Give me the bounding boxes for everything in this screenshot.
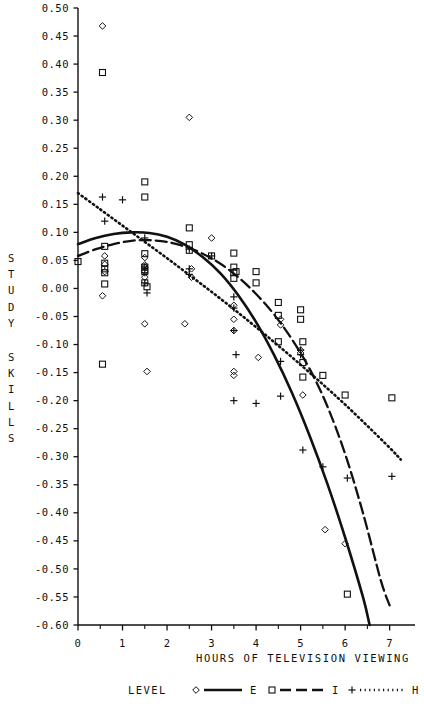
x-tick-label: 6 bbox=[342, 637, 349, 649]
marker-square bbox=[344, 591, 350, 597]
fit-line-E bbox=[78, 232, 370, 625]
x-tick-label: 0 bbox=[75, 637, 82, 649]
y-axis-title-char: K bbox=[8, 367, 15, 379]
marker-square bbox=[253, 269, 259, 275]
y-axis-title-char: S bbox=[8, 432, 14, 444]
series-points-E bbox=[99, 23, 348, 547]
y-tick-label: 0.50 bbox=[42, 2, 69, 14]
legend-label-H: H bbox=[412, 684, 420, 696]
y-tick-label: -0.55 bbox=[35, 591, 69, 603]
y-tick-label: -0.15 bbox=[35, 366, 69, 378]
marker-square bbox=[99, 361, 105, 367]
legend-label-I: I bbox=[332, 684, 340, 696]
x-tick-label: 3 bbox=[208, 637, 215, 649]
y-axis-title-char: Y bbox=[8, 317, 15, 329]
y-axis-title-char: S bbox=[8, 351, 14, 363]
marker-square bbox=[231, 250, 237, 256]
y-tick-label: -0.05 bbox=[35, 310, 69, 322]
x-axis-title: HOURS OF TELEVISION VIEWING bbox=[196, 652, 410, 664]
y-tick-label: 0.35 bbox=[42, 86, 69, 98]
y-axis-title-char: D bbox=[8, 301, 14, 313]
marker-diamond bbox=[144, 368, 151, 375]
marker-square bbox=[298, 307, 304, 313]
marker-square bbox=[300, 374, 306, 380]
marker-diamond bbox=[193, 687, 200, 694]
y-tick-label: 0.25 bbox=[42, 142, 69, 154]
legend-title: LEVEL bbox=[128, 684, 167, 696]
marker-diamond bbox=[99, 292, 106, 299]
y-tick-label: 0.00 bbox=[42, 282, 69, 294]
scatter-chart: 0.500.450.400.350.300.250.200.150.100.05… bbox=[0, 0, 424, 710]
marker-diamond bbox=[255, 354, 262, 361]
y-tick-label: 0.45 bbox=[42, 30, 69, 42]
y-axis-title-char: S bbox=[8, 252, 14, 264]
marker-square bbox=[298, 316, 304, 322]
y-tick-label: -0.60 bbox=[35, 619, 69, 631]
y-tick-label: -0.50 bbox=[35, 563, 69, 575]
marker-square bbox=[269, 687, 275, 693]
y-tick-label: 0.05 bbox=[42, 254, 69, 266]
marker-square bbox=[253, 280, 259, 286]
marker-square bbox=[142, 179, 148, 185]
x-tick-label: 1 bbox=[119, 637, 126, 649]
marker-diamond bbox=[99, 23, 106, 30]
marker-square bbox=[275, 299, 281, 305]
y-tick-label: -0.45 bbox=[35, 534, 69, 546]
legend: LEVELEIH bbox=[128, 684, 420, 696]
y-tick-label: -0.20 bbox=[35, 394, 69, 406]
y-axis-title-char: L bbox=[8, 400, 14, 412]
marker-diamond bbox=[182, 320, 189, 327]
marker-square bbox=[99, 70, 105, 76]
y-tick-label: 0.20 bbox=[42, 170, 69, 182]
chart-root: 0.500.450.400.350.300.250.200.150.100.05… bbox=[0, 0, 424, 710]
y-tick-label: -0.25 bbox=[35, 422, 69, 434]
y-tick-label: 0.15 bbox=[42, 198, 69, 210]
y-axis-title: STUDYSKILLS bbox=[8, 252, 15, 444]
x-tick-label: 7 bbox=[386, 637, 393, 649]
y-axis-title-char: T bbox=[8, 268, 15, 280]
y-axis-title-char: I bbox=[8, 383, 14, 395]
y-tick-label: 0.30 bbox=[42, 114, 69, 126]
series-curve-E bbox=[78, 232, 370, 625]
y-tick-label: -0.10 bbox=[35, 338, 69, 350]
y-tick-label: 0.40 bbox=[42, 58, 69, 70]
legend-label-E: E bbox=[250, 684, 258, 696]
y-tick-label: -0.30 bbox=[35, 450, 69, 462]
marker-square bbox=[102, 281, 108, 287]
marker-square bbox=[186, 225, 192, 231]
y-tick-label: -0.35 bbox=[35, 478, 69, 490]
marker-square bbox=[342, 392, 348, 398]
marker-diamond bbox=[141, 254, 148, 261]
y-tick-label: -0.40 bbox=[35, 506, 69, 518]
y-axis-title-char: U bbox=[8, 284, 14, 296]
marker-diamond bbox=[208, 235, 215, 242]
marker-diamond bbox=[300, 392, 307, 399]
marker-diamond bbox=[231, 316, 238, 323]
marker-square bbox=[300, 339, 306, 345]
x-tick-label: 4 bbox=[253, 637, 260, 649]
legend-entry-I[interactable]: I bbox=[269, 684, 340, 696]
y-axis-title-char: L bbox=[8, 416, 14, 428]
marker-diamond bbox=[101, 253, 108, 260]
series-points-H bbox=[99, 193, 396, 481]
marker-diamond bbox=[141, 320, 148, 327]
legend-entry-H[interactable]: H bbox=[348, 684, 419, 696]
marker-square bbox=[320, 372, 326, 378]
x-tick-label: 5 bbox=[297, 637, 304, 649]
legend-entry-E[interactable]: E bbox=[193, 684, 258, 696]
marker-square bbox=[142, 194, 148, 200]
marker-diamond bbox=[186, 114, 193, 121]
y-tick-label: 0.10 bbox=[42, 226, 69, 238]
marker-square bbox=[389, 395, 395, 401]
x-tick-label: 2 bbox=[164, 637, 171, 649]
marker-diamond bbox=[322, 526, 329, 533]
